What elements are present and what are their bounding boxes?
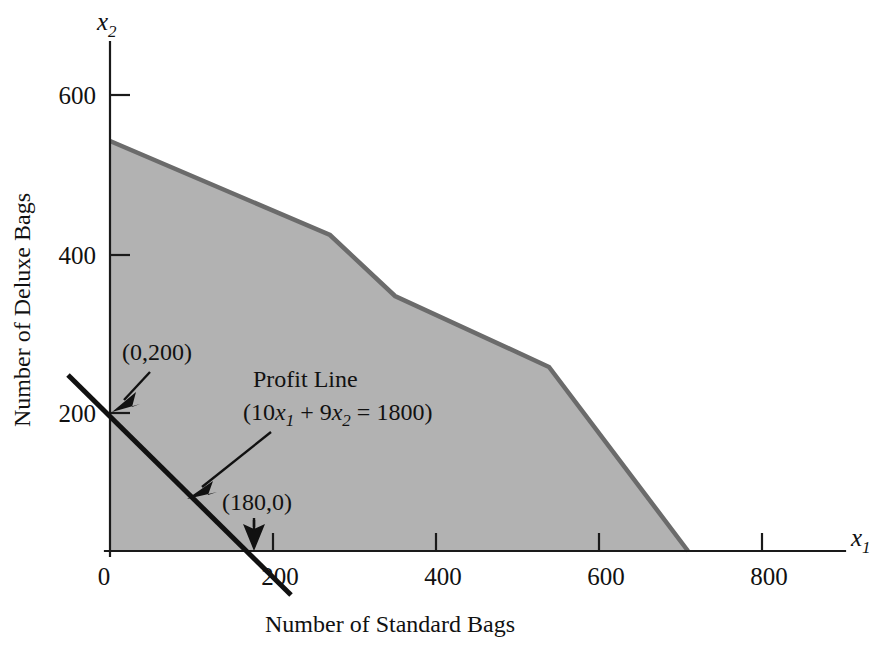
- x-axis-variable: x1: [850, 524, 871, 557]
- chart-svg: 0 200 400 600 800 200 400 600 x2 x1 Numb…: [0, 0, 878, 645]
- annotation-point-180-0-label: (180,0): [222, 489, 292, 515]
- eq-var1: x: [274, 399, 286, 425]
- feasible-region-fill: [110, 141, 688, 551]
- y-axis-tick-labels: 200 400 600: [59, 82, 97, 427]
- y-ticklabel-400: 400: [59, 242, 97, 269]
- annotation-profit-line-title: Profit Line: [253, 366, 358, 392]
- feasible-region: [110, 141, 688, 551]
- eq-sub1: 1: [286, 411, 295, 430]
- x-ticklabel-600: 600: [587, 563, 625, 590]
- y-axis-title: Number of Deluxe Bags: [9, 193, 35, 427]
- eq-suffix: = 1800): [351, 399, 433, 425]
- y-ticklabel-200: 200: [59, 400, 97, 427]
- y-axis-variable: x2: [96, 8, 117, 41]
- eq-prefix: (10: [243, 399, 275, 425]
- x-ticklabel-400: 400: [424, 563, 462, 590]
- x-ticklabel-800: 800: [750, 563, 788, 590]
- x-axis-title: Number of Standard Bags: [265, 611, 515, 637]
- eq-mid: + 9: [294, 399, 332, 425]
- linear-programming-graph: 0 200 400 600 800 200 400 600 x2 x1 Numb…: [0, 0, 878, 645]
- y-ticklabel-600: 600: [59, 82, 97, 109]
- x-ticklabel-0: 0: [98, 563, 111, 590]
- annotation-point-0-200-label: (0,200): [122, 339, 192, 365]
- x-axis-tick-labels: 0 200 400 600 800: [98, 563, 788, 590]
- eq-var2: x: [331, 399, 343, 425]
